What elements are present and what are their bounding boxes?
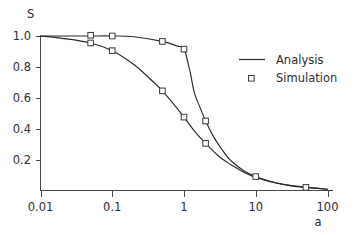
- data-point-marker: [303, 185, 309, 191]
- data-point-marker: [253, 174, 259, 180]
- y-tick-label: 0.4: [13, 122, 31, 136]
- data-point-marker: [160, 39, 166, 45]
- data-point-marker: [181, 114, 187, 120]
- data-point-marker: [88, 40, 94, 46]
- data-point-marker: [109, 48, 115, 54]
- data-point-marker: [203, 141, 209, 147]
- line-chart: S a 1.00.80.60.40.2 0.010.1110100 Analys…: [0, 0, 353, 235]
- y-tick-label: 0.2: [13, 153, 31, 167]
- y-tick-label: 0.8: [13, 60, 31, 74]
- data-point-marker: [181, 46, 187, 52]
- data-point-marker: [160, 88, 166, 94]
- chart-figure: S a 1.00.80.60.40.2 0.010.1110100 Analys…: [0, 0, 353, 235]
- y-tick-label: 1.0: [13, 29, 31, 43]
- data-point-marker: [203, 118, 209, 124]
- legend-label-simulation: Simulation: [276, 71, 337, 85]
- x-axis-title: a: [314, 215, 321, 229]
- data-point-marker: [88, 32, 94, 38]
- x-tick-label: 10: [248, 200, 263, 214]
- legend-label-analysis: Analysis: [276, 53, 323, 67]
- x-tick-label: 0.1: [103, 200, 121, 214]
- y-axis-title: S: [27, 7, 34, 21]
- legend-square-swatch: [249, 76, 255, 82]
- x-tick-label: 0.01: [28, 200, 54, 214]
- x-tick-label: 100: [317, 200, 339, 214]
- data-point-marker: [109, 33, 115, 39]
- y-tick-label: 0.6: [13, 91, 31, 105]
- x-tick-label: 1: [180, 200, 187, 214]
